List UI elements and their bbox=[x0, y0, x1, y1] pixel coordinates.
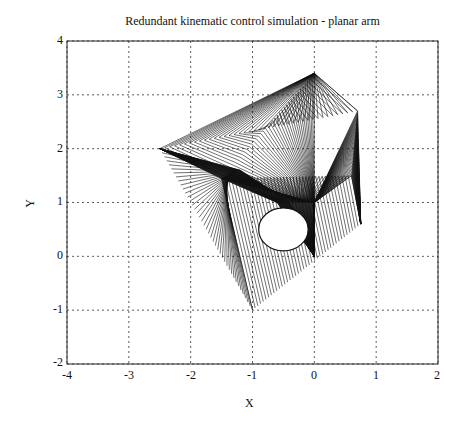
plot-area bbox=[0, 0, 463, 426]
y-tick-0: 0 bbox=[57, 248, 63, 263]
obstacle-circle bbox=[259, 208, 308, 251]
grid-lines bbox=[67, 41, 438, 364]
arm-sweep-lines bbox=[160, 73, 361, 310]
y-tick-1: 1 bbox=[57, 194, 63, 209]
x-tick-neg2: -2 bbox=[186, 368, 196, 383]
x-tick-neg3: -3 bbox=[124, 368, 134, 383]
y-tick-neg1: -1 bbox=[53, 302, 63, 317]
x-tick-2: 2 bbox=[434, 368, 440, 383]
x-tick-neg1: -1 bbox=[247, 368, 257, 383]
y-tick-3: 3 bbox=[57, 87, 63, 102]
y-tick-2: 2 bbox=[57, 141, 63, 156]
x-tick-1: 1 bbox=[373, 368, 379, 383]
x-axis-label: X bbox=[245, 396, 254, 411]
y-tick-4: 4 bbox=[57, 33, 63, 48]
x-tick-neg4: -4 bbox=[62, 368, 72, 383]
y-axis-label: Y bbox=[23, 199, 38, 208]
x-tick-0: 0 bbox=[311, 368, 317, 383]
